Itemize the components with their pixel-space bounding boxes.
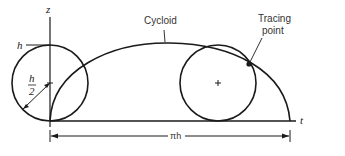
dim-arrow-left [51, 134, 58, 139]
tracing-point-pointer [250, 38, 262, 62]
diagram-canvas: z t h h 2 Cycloid Tracing point πh [0, 0, 345, 156]
height-label: h [17, 39, 23, 51]
t-axis-label: t [300, 114, 304, 126]
cycloid-label: Cycloid [144, 15, 177, 26]
tracing-point-label-2: point [262, 25, 284, 36]
radius-denominator: 2 [29, 85, 35, 97]
tracing-point-dot [246, 61, 251, 66]
dim-arrow-right [282, 134, 289, 139]
cycloid-pointer [164, 30, 165, 42]
cycloid-diagram: z t h h 2 Cycloid Tracing point πh [0, 0, 345, 156]
span-label: πh [170, 131, 181, 141]
radius-numerator: h [29, 72, 35, 84]
tracing-point-label-1: Tracing [258, 13, 291, 24]
z-axis-label: z [45, 3, 51, 15]
